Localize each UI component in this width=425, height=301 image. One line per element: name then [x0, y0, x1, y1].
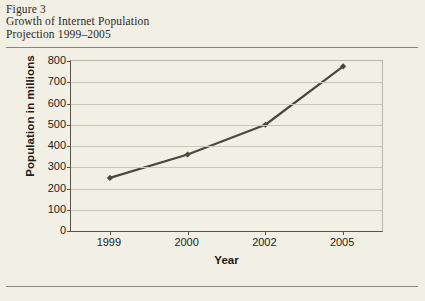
y-tick-label: 700	[48, 76, 66, 87]
y-tick-label: 400	[48, 140, 66, 151]
y-tick-mark	[67, 231, 71, 232]
figure-title-line-2: Projection 1999–2005	[6, 28, 306, 40]
y-tick-mark	[67, 210, 71, 211]
x-axis-tick-labels: 1999200020022005	[70, 236, 383, 252]
gridline	[71, 146, 382, 147]
x-tick-mark	[110, 231, 111, 235]
x-axis-title: Year	[70, 254, 383, 266]
y-tick-mark	[67, 104, 71, 105]
y-tick-label: 200	[48, 182, 66, 193]
x-tick-label: 2000	[174, 236, 198, 248]
y-tick-mark	[67, 189, 71, 190]
y-tick-label: 600	[48, 97, 66, 108]
y-tick-label: 0	[60, 225, 66, 236]
gridline	[71, 189, 382, 190]
data-point-marker	[107, 175, 113, 181]
y-tick-label: 500	[48, 118, 66, 129]
x-tick-mark	[265, 231, 266, 235]
line-chart: Population in millions 01002003004005006…	[0, 52, 425, 284]
gridline	[71, 167, 382, 168]
y-tick-mark	[67, 82, 71, 83]
y-tick-label: 800	[48, 55, 66, 66]
gridline	[71, 210, 382, 211]
x-tick-label: 2005	[330, 236, 354, 248]
y-axis-tick-labels: 0100200300400500600700800	[34, 60, 66, 232]
y-tick-mark	[67, 61, 71, 62]
gridline	[71, 82, 382, 83]
x-tick-mark	[188, 231, 189, 235]
x-tick-label: 1999	[97, 236, 121, 248]
figure-bottom-rule	[6, 286, 418, 287]
y-tick-mark	[67, 167, 71, 168]
gridline	[71, 104, 382, 105]
y-tick-mark	[67, 146, 71, 147]
figure-caption: Figure 3 Growth of Internet Population P…	[6, 3, 306, 40]
x-tick-mark	[343, 231, 344, 235]
gridline	[71, 125, 382, 126]
caption-divider-rule	[6, 47, 418, 48]
x-tick-label: 2002	[252, 236, 276, 248]
figure-title-line-1: Growth of Internet Population	[6, 15, 306, 27]
plot-area	[70, 60, 383, 232]
data-point-marker	[185, 151, 191, 157]
y-tick-label: 100	[48, 203, 66, 214]
figure-number: Figure 3	[6, 3, 306, 15]
y-tick-mark	[67, 125, 71, 126]
y-tick-label: 300	[48, 161, 66, 172]
